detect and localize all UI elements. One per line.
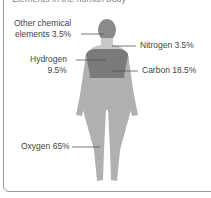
- label-carbon: Carbon 18.5%: [142, 65, 196, 76]
- label-other: Other chemical elements 3.5%: [14, 18, 71, 40]
- label-nitrogen: Nitrogen 3.5%: [140, 40, 194, 51]
- label-oxygen: Oxygen 65%: [21, 141, 70, 152]
- torso-shape: [84, 49, 130, 78]
- label-hydrogen: Hydrogen 9.5%: [30, 54, 67, 76]
- head-shape: [98, 19, 116, 41]
